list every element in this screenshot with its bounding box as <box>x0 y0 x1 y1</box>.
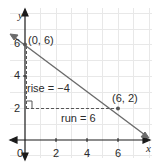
tick-y6: 6 <box>14 38 20 49</box>
tick-x2: 2 <box>53 148 59 159</box>
point-6-2 <box>116 107 120 111</box>
rise-label: rise = −4 <box>27 83 70 94</box>
point-label-6-2: (6, 2) <box>112 93 138 104</box>
right-angle-marker <box>27 101 33 108</box>
x-axis <box>10 137 150 143</box>
point-0-6 <box>23 43 27 47</box>
coordinate-plane <box>0 0 156 164</box>
y-axis-label: y <box>18 10 23 21</box>
tick-y4: 4 <box>14 70 20 81</box>
x-axis-label: x <box>146 143 151 154</box>
run-label: run = 6 <box>61 113 96 124</box>
tick-x4: 4 <box>84 148 90 159</box>
tick-origin: 0 <box>17 148 23 159</box>
point-label-0-6: (0, 6) <box>28 35 54 46</box>
tick-x6: 6 <box>115 148 121 159</box>
tick-y2: 2 <box>14 103 20 114</box>
